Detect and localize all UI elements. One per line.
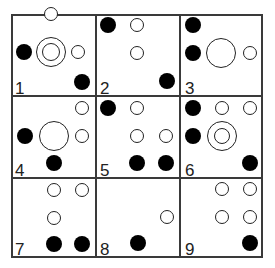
cell-label-2: 2 [100,80,109,97]
double-circle-icon [36,37,66,67]
cell-label-1: 1 [15,80,24,97]
open-circle-icon [130,18,144,32]
cell-label-9: 9 [185,241,194,258]
cell-label-8: 8 [100,241,109,258]
filled-circle-icon [185,17,201,33]
open-circle-icon [243,210,257,224]
open-circle-icon [47,211,61,225]
grid-divider-horizontal-1 [11,95,263,97]
cell-label-6: 6 [185,162,194,179]
open-circle-icon [39,121,69,151]
filled-circle-icon [46,155,62,171]
filled-circle-icon [129,155,145,171]
open-circle-icon [47,183,61,197]
inner-circle-icon [42,43,60,61]
open-circle-icon [75,101,89,115]
open-circle-icon [243,46,257,60]
open-circle-icon [130,129,144,143]
inner-circle-icon [214,128,230,144]
filled-circle-icon [185,100,201,116]
open-circle-icon [44,7,58,21]
filled-circle-icon [242,235,258,251]
filled-circle-icon [242,155,258,171]
cell-label-5: 5 [100,162,109,179]
open-circle-icon [243,182,257,196]
open-circle-icon [159,129,173,143]
filled-circle-icon [17,128,33,144]
open-circle-icon [160,210,174,224]
filled-circle-icon [185,128,201,144]
open-circle-icon [130,101,144,115]
double-circle-icon [207,121,237,151]
filled-circle-icon [74,236,90,252]
grid-divider-vertical-2 [179,14,181,258]
filled-circle-icon [16,44,32,60]
filled-circle-icon [185,45,201,61]
filled-circle-icon [158,155,174,171]
open-circle-icon [243,101,257,115]
grid-divider-vertical-1 [95,14,97,258]
open-circle-icon [215,182,229,196]
cell-label-4: 4 [15,162,24,179]
grid-divider-horizontal-2 [11,177,263,179]
open-circle-icon [206,38,236,68]
cell-label-3: 3 [185,80,194,97]
open-circle-icon [71,45,85,59]
filled-circle-icon [46,236,62,252]
filled-circle-icon [159,73,175,89]
open-circle-icon [215,210,229,224]
open-circle-icon [215,101,229,115]
open-circle-icon [75,183,89,197]
cell-label-7: 7 [15,241,24,258]
open-circle-icon [75,129,89,143]
filled-circle-icon [100,17,116,33]
filled-circle-icon [100,100,116,116]
filled-circle-icon [130,235,146,251]
filled-circle-icon [74,74,90,90]
open-circle-icon [130,46,144,60]
